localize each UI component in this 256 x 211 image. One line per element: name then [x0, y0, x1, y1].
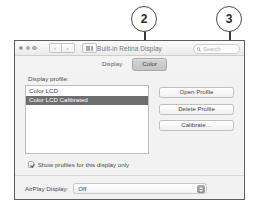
calibrate-button[interactable]: Calibrate…: [159, 120, 234, 131]
chevron-left-icon: ‹: [54, 45, 56, 51]
callout-marker-3: 3: [216, 6, 242, 32]
color-pane: Display profile: Color LCD Color LCD Cal…: [15, 75, 244, 175]
display-preferences-window: ‹ › Built-in Retina Display Search Displ…: [14, 40, 245, 200]
airplay-display-value: Off: [78, 185, 86, 192]
open-profile-button[interactable]: Open Profile: [159, 87, 234, 98]
callout-marker-2: 2: [131, 6, 157, 32]
forward-button[interactable]: ›: [62, 43, 75, 53]
display-profile-label: Display profile:: [28, 75, 234, 82]
close-button-icon[interactable]: [19, 46, 23, 50]
navigation-buttons: ‹ ›: [49, 43, 75, 53]
calibrate-label: Calibrate…: [181, 122, 211, 128]
search-icon: [197, 47, 200, 50]
profile-action-buttons: Open Profile Delete Profile Calibrate…: [159, 85, 234, 154]
show-profiles-checkbox-label: Show profiles for this display only: [38, 161, 129, 168]
tab-display[interactable]: Display: [92, 58, 132, 71]
profile-columns: Color LCD Color LCD Calibrated Open Prof…: [25, 85, 234, 154]
airplay-display-row: AirPlay Display: Off: [25, 176, 234, 194]
list-item[interactable]: Color LCD: [26, 86, 148, 96]
list-item[interactable]: Color LCD Calibrated: [26, 96, 148, 106]
window-footer: AirPlay Display: Off Show mirroring opti…: [15, 176, 244, 200]
tab-bar: Display Color: [15, 56, 244, 73]
back-button[interactable]: ‹: [49, 43, 62, 53]
search-placeholder: Search: [203, 46, 221, 52]
chevron-updown-icon: [197, 185, 205, 193]
tab-color-label: Color: [142, 60, 157, 67]
list-item-label: Color LCD: [29, 87, 58, 94]
traffic-light-buttons: [19, 46, 37, 50]
show-all-preferences-button[interactable]: [82, 43, 97, 53]
grid-icon: [86, 46, 93, 51]
display-profile-list[interactable]: Color LCD Color LCD Calibrated: [25, 85, 149, 154]
show-profiles-checkbox-row[interactable]: Show profiles for this display only: [28, 161, 234, 168]
open-profile-label: Open Profile: [180, 89, 214, 95]
airplay-display-select[interactable]: Off: [73, 183, 207, 194]
tab-display-label: Display: [102, 60, 122, 67]
window-titlebar: ‹ › Built-in Retina Display Search: [15, 41, 244, 56]
list-item-label: Color LCD Calibrated: [29, 96, 88, 103]
delete-profile-label: Delete Profile: [178, 106, 215, 112]
search-input[interactable]: Search: [193, 44, 240, 54]
show-profiles-checkbox[interactable]: [28, 161, 34, 167]
minimize-button-icon[interactable]: [26, 46, 30, 50]
delete-profile-button[interactable]: Delete Profile: [159, 104, 234, 115]
tab-group: Display Color: [92, 58, 167, 71]
chevron-right-icon: ›: [67, 45, 69, 51]
zoom-button-icon[interactable]: [32, 46, 36, 50]
airplay-display-label: AirPlay Display:: [25, 185, 68, 192]
callout-marker-2-label: 2: [141, 12, 148, 26]
callout-marker-3-label: 3: [226, 12, 233, 26]
tab-color[interactable]: Color: [132, 58, 167, 71]
